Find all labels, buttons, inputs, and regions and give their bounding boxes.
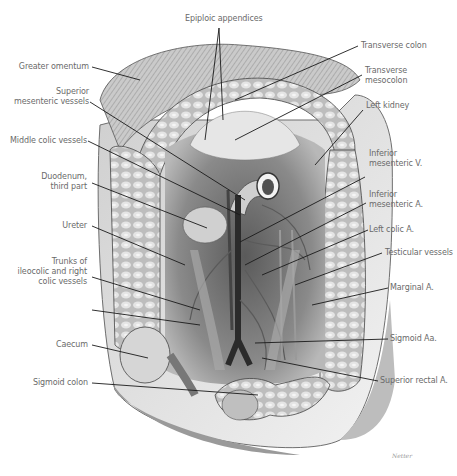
label-ureter: Ureter — [62, 221, 87, 231]
retroperitoneum — [165, 111, 325, 385]
label-line: mesenteric vessels — [14, 97, 89, 107]
artist-signature: Netter — [392, 452, 412, 459]
label-line: Duodenum, — [41, 172, 87, 182]
ascending-colon — [110, 146, 160, 354]
label-line: mesocolon — [365, 76, 407, 86]
label-left-kidney: Left kidney — [366, 101, 409, 111]
label-line: mesenteric V. — [369, 159, 422, 169]
label-line: Trunks of — [18, 257, 87, 267]
label-transverse-mesocolon: Transverse mesocolon — [365, 66, 407, 86]
label-line: Superior — [14, 87, 89, 97]
label-caecum: Caecum — [56, 340, 88, 350]
label-epiploic-appendices: Epiploic appendices — [185, 14, 263, 24]
label-duodenum-third-part: Duodenum, third part — [41, 172, 87, 192]
label-left-colic-a: Left colic A. — [369, 225, 414, 235]
label-line: colic vessels — [18, 277, 87, 287]
label-middle-colic-vessels: Middle colic vessels — [10, 136, 87, 146]
label-line: Transverse — [365, 66, 407, 76]
label-transverse-colon: Transverse colon — [361, 41, 427, 51]
label-line: ileocolic and right — [18, 267, 87, 277]
label-line: Inferior — [369, 149, 422, 159]
label-inferior-mesenteric-v: Inferior mesenteric V. — [369, 149, 422, 169]
label-inferior-mesenteric-a: Inferior mesenteric A. — [369, 190, 423, 210]
label-greater-omentum: Greater omentum — [19, 62, 89, 72]
label-superior-rectal-a: Superior rectal A. — [380, 376, 448, 386]
label-sigmoid-aa: Sigmoid Aa. — [390, 334, 437, 344]
label-testicular-vessels: Testicular vessels — [385, 248, 453, 258]
label-line: third part — [41, 182, 87, 192]
label-trunks-ileocolic: Trunks of ileocolic and right colic vess… — [18, 257, 87, 287]
label-line: mesenteric A. — [369, 200, 423, 210]
descending-colon — [320, 150, 365, 391]
label-superior-mesenteric-vessels: Superior mesenteric vessels — [14, 87, 89, 107]
label-marginal-a: Marginal A. — [390, 283, 434, 293]
label-sigmoid-colon: Sigmoid colon — [33, 378, 88, 388]
label-line: Inferior — [369, 190, 423, 200]
